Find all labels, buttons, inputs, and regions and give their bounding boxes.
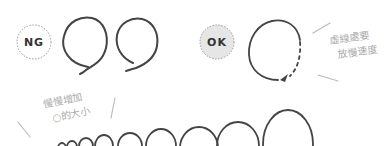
ok-note-line1: 虛線處要 [329,28,370,45]
ok-loop [249,20,300,80]
ok-note-emphasis-marks [313,23,338,81]
loop-4 [95,135,113,146]
ng-loops [63,18,157,74]
ok-badge: OK [200,25,234,59]
loop-8 [217,122,259,146]
ok-note: 虛線處要 放慢速度 [329,28,378,61]
growing-loops [58,110,313,146]
loop-1 [58,143,66,146]
loop-2 [67,141,77,146]
ok-note-line2: 放慢速度 [337,42,378,59]
loop-6 [146,129,176,146]
ng-badge: NG [17,25,51,59]
loop-9 [263,110,313,146]
loop-3 [79,138,93,146]
ok-loop-solid [249,20,300,80]
growth-note: 慢慢增加 ○的大小 [42,89,91,125]
ng-badge-label: NG [24,36,44,49]
ok-badge-label: OK [207,36,227,49]
ng-loop-1 [63,18,107,74]
arrow-head-icon [280,74,288,82]
handwriting-diagram: NG OK 虛線處要 放慢速度 慢慢增加 ○的大小 [0,0,386,146]
ok-loop-dashed [290,42,300,76]
loop-7 [180,127,218,146]
loop-5 [118,133,142,146]
ng-loop-2 [117,19,158,71]
